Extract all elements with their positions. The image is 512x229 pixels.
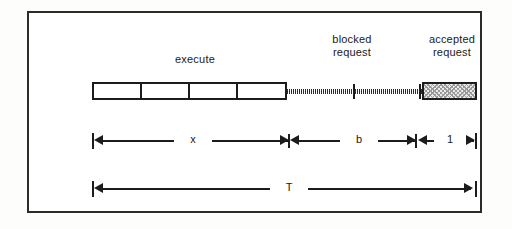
execute-segment [94, 84, 142, 98]
arrow-right-icon [466, 135, 475, 145]
dimension-divider-b-1 [415, 134, 417, 148]
accepted-request-label: accepted request [407, 33, 497, 59]
waiting-dotted-run [355, 89, 419, 94]
figure-canvas: execute blocked request accepted request [0, 0, 512, 229]
dimension-label-x: x [174, 132, 212, 146]
execute-label: execute [135, 53, 255, 66]
blocked-request-label: blocked request [310, 33, 394, 59]
dimension-row-total: T [92, 178, 477, 200]
waiting-dotted-run [287, 89, 353, 94]
arrow-right-icon [464, 183, 473, 193]
timeline-bar [92, 82, 477, 100]
execute-segment [142, 84, 190, 98]
dimension-endbar-right [475, 181, 477, 197]
dimension-label-one: 1 [434, 132, 466, 146]
execute-segment [190, 84, 238, 98]
dimension-label-b: b [340, 132, 378, 146]
dimension-endbar-right [475, 133, 477, 149]
dimension-label-total: T [270, 180, 308, 194]
execute-segment [238, 84, 285, 98]
execute-phase-group [92, 82, 287, 100]
accepted-request-box [422, 82, 477, 100]
figure-frame: execute blocked request accepted request [27, 11, 482, 213]
dimension-row-x-b-1: x b 1 [92, 130, 477, 152]
